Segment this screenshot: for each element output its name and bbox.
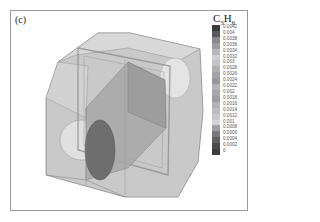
colorbar-ticks: 0.00420.0040.00380.00360.00340.00320.003… (223, 24, 249, 154)
colorbar (212, 25, 220, 155)
colorbar-swatch (212, 149, 220, 155)
colorbar-tick-label: 0 (223, 148, 249, 154)
cylinder-dark-end (85, 120, 115, 180)
